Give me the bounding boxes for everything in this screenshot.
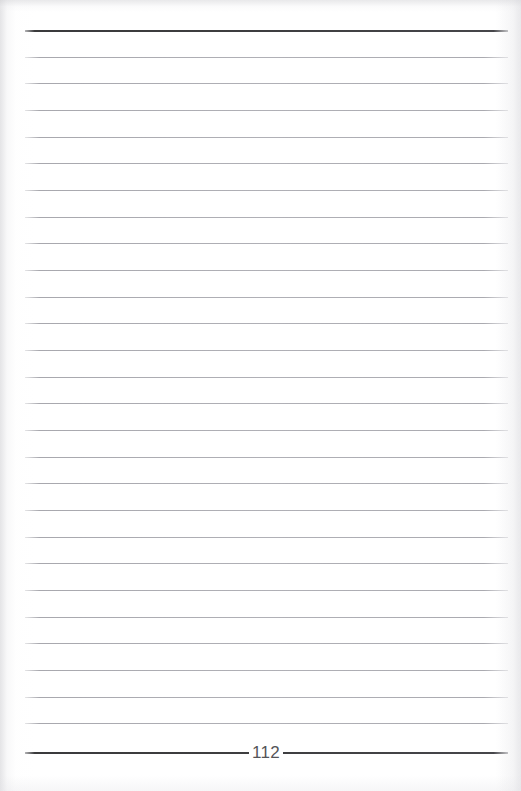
- ruling-line: [25, 697, 508, 698]
- ruling-line: [25, 83, 508, 84]
- ruling-line: [25, 190, 508, 191]
- notebook-page: 112: [0, 0, 521, 791]
- bottom-scan-shadow: [0, 775, 521, 791]
- ruling-line: [25, 110, 508, 111]
- ruling-line: [25, 57, 508, 58]
- ruling-line: [25, 430, 508, 431]
- ruling-line: [25, 217, 508, 218]
- ruling-line: [25, 670, 508, 671]
- ruling-line: [25, 243, 508, 244]
- ruling-line: [25, 723, 508, 724]
- ruling-line: [25, 457, 508, 458]
- ruling-line: [25, 563, 508, 564]
- right-scan-shadow: [495, 0, 521, 791]
- page-number: 112: [249, 744, 283, 761]
- ruling-line: [25, 30, 508, 32]
- ruling-line: [25, 163, 508, 164]
- top-scan-shadow: [0, 0, 521, 12]
- ruling-line: [25, 483, 508, 484]
- ruling-line: [25, 403, 508, 404]
- ruling-line: [25, 350, 508, 351]
- ruling-line: [25, 377, 508, 378]
- ruling-line: [25, 323, 508, 324]
- ruling-line: [25, 137, 508, 138]
- ruling-line: [25, 590, 508, 591]
- ruling-line: [25, 270, 508, 271]
- paper-tone-overlay: [0, 0, 521, 791]
- ruling-line: [25, 617, 508, 618]
- ruling-line: [25, 537, 508, 538]
- ruling-line: [25, 510, 508, 511]
- ruling-line: [25, 297, 508, 298]
- ruling-line: [25, 643, 508, 644]
